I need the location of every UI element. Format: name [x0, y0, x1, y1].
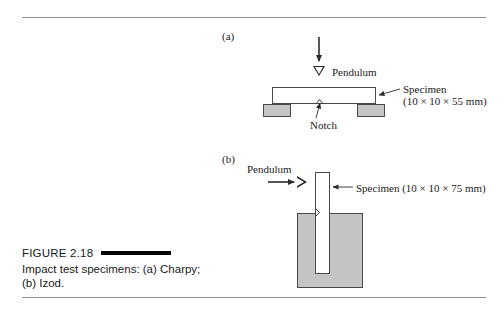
charpy-specimen-bar	[272, 87, 376, 104]
top-divider-rule	[22, 17, 486, 18]
caption-rule	[101, 251, 171, 255]
charpy-pendulum-label: Pendulum	[332, 66, 377, 79]
izod-vise-block	[297, 213, 363, 288]
caption-text: Impact test specimens: (a) Charpy; (b) I…	[22, 262, 207, 290]
panel-label-b: (b)	[222, 153, 235, 165]
charpy-notch-leader	[316, 103, 320, 118]
caption-figure-number: FIGURE 2.18	[22, 247, 93, 259]
charpy-support-left	[263, 104, 291, 117]
caption-header: FIGURE 2.18	[22, 246, 222, 260]
charpy-support-right	[357, 104, 385, 117]
figure-page: (a) Pendulum Notch Specimen (10 × 10 × 5…	[0, 0, 504, 316]
izod-pendulum-triangle-inner	[297, 178, 304, 186]
figure-caption: FIGURE 2.18 Impact test specimens: (a) C…	[22, 246, 222, 290]
izod-specimen-label: Specimen (10 × 10 × 75 mm)	[356, 182, 486, 195]
izod-pendulum-label: Pendulum	[247, 163, 292, 176]
charpy-pendulum-triangle-inner	[315, 67, 323, 74]
bottom-divider-rule	[22, 297, 486, 298]
charpy-specimen-dimensions: (10 × 10 × 55 mm)	[403, 95, 487, 108]
charpy-notch-label: Notch	[310, 119, 337, 132]
panel-label-a: (a)	[222, 30, 234, 42]
izod-vise-slot	[315, 212, 330, 274]
charpy-specimen-leader	[379, 89, 400, 95]
